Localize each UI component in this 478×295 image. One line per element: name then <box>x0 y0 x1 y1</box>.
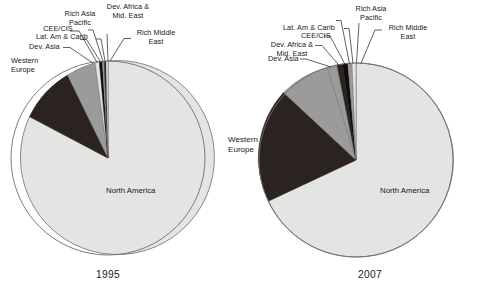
label-rich-middle-1995-line2: East <box>130 38 182 47</box>
label-rich-middle-2007-line2: East <box>381 33 435 42</box>
label-dev-asia-1995-text: Dev. Asia <box>29 42 60 51</box>
label-lat-am-carib-1995: Lat. Am & Carib <box>36 33 88 42</box>
label-dev-asia-2007: Dev. Asia <box>268 55 299 64</box>
label-western-europe-2007: Western Europe <box>228 135 274 154</box>
label-western-europe-1995-line2: Europe <box>11 66 61 75</box>
label-north-america-1995-text: North America <box>106 186 155 195</box>
label-north-america-2007: North America <box>380 186 429 195</box>
label-lat-am-carib-1995-text: Lat. Am & Carib <box>36 32 88 41</box>
label-western-europe-2007-line2: Europe <box>228 145 274 155</box>
label-north-america-1995: North America <box>106 186 155 195</box>
label-dev-africa-mid-east-1995: Dev. Africa & Mid. East <box>99 3 157 20</box>
label-rich-asia-pacific-2007: Rich Asia Pacific <box>345 5 397 22</box>
label-dev-africa-1995-line2: Mid. East <box>99 12 157 21</box>
label-rich-asia-2007-line2: Pacific <box>345 14 397 23</box>
label-cee-cis-2007-text: CEE/CIS <box>301 31 331 40</box>
label-dev-asia-1995: Dev. Asia <box>29 43 60 52</box>
year-label-1995: 1995 <box>88 269 128 280</box>
year-label-1995-text: 1995 <box>96 269 120 280</box>
label-western-europe-2007-line1: Western <box>228 135 274 145</box>
label-rich-middle-east-1995: Rich Middle East <box>130 29 182 46</box>
label-dev-asia-2007-text: Dev. Asia <box>268 54 299 63</box>
label-north-america-2007-text: North America <box>380 186 429 195</box>
label-western-europe-1995: Western Europe <box>11 57 61 74</box>
year-label-2007: 2007 <box>350 269 390 280</box>
year-label-2007-text: 2007 <box>358 269 382 280</box>
pie-chart-figure: CEE/CIS Rich Asia Pacific Lat. Am & Cari… <box>0 0 478 295</box>
label-rich-middle-east-2007: Rich Middle East <box>381 24 435 41</box>
